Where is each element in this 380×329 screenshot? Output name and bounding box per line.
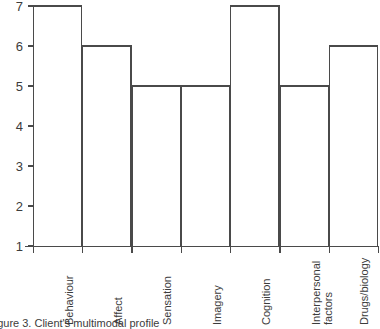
bar xyxy=(34,6,82,246)
y-tick-labels: 1234567 xyxy=(16,0,23,254)
bar xyxy=(181,86,229,246)
x-category-label: Interpersonalfactors xyxy=(310,261,334,325)
x-category-label: Drugs/biology xyxy=(358,258,370,325)
x-axis xyxy=(25,246,379,253)
x-category-label-line: factors xyxy=(322,261,334,325)
bar xyxy=(132,86,180,246)
y-tick-label: 6 xyxy=(16,39,23,54)
y-tick-label: 2 xyxy=(16,199,23,214)
y-axis xyxy=(28,6,34,246)
bars-group xyxy=(34,6,378,246)
bar xyxy=(231,6,279,246)
figure-container: 1234567 BehaviourAffectSensationImageryC… xyxy=(0,0,380,329)
figure-caption: Figure 3. Client's multimodal profile xyxy=(0,317,380,329)
y-tick-label: 1 xyxy=(16,239,23,254)
y-tick-label: 5 xyxy=(16,79,23,94)
y-tick-label: 4 xyxy=(16,119,23,134)
x-category-label-line: Interpersonal xyxy=(310,261,322,325)
x-category-label-line: Drugs/biology xyxy=(358,258,370,325)
y-tick-label: 3 xyxy=(16,159,23,174)
bar xyxy=(329,46,377,246)
bar xyxy=(83,46,131,246)
bar xyxy=(280,86,328,246)
y-tick-label: 7 xyxy=(16,0,23,14)
multimodal-profile-bar-chart: 1234567 xyxy=(0,0,380,260)
